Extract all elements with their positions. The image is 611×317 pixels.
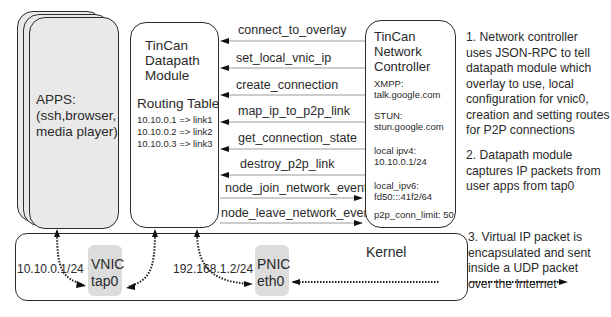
connector-arrows xyxy=(0,0,611,317)
